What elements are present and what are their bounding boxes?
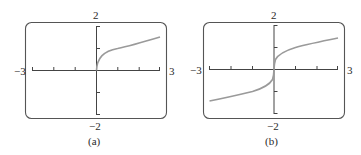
x-min-label: −3 (190, 65, 202, 76)
graph-panel-b: 2 −2 −3 3 (b) (180, 0, 360, 155)
graph-panel-a: 2 −2 −3 3 (a) (0, 0, 180, 155)
y-min-label: −2 (89, 121, 101, 132)
panel-caption: (a) (88, 136, 100, 147)
y-max-label: 2 (271, 10, 277, 21)
y-max-label: 2 (93, 10, 99, 21)
panel-caption: (b) (265, 136, 278, 147)
x-max-label: 3 (169, 66, 175, 77)
curve-sqrt (97, 37, 161, 71)
y-min-label: −2 (267, 121, 279, 132)
x-min-label: −3 (14, 66, 26, 77)
x-max-label: 3 (347, 65, 353, 76)
